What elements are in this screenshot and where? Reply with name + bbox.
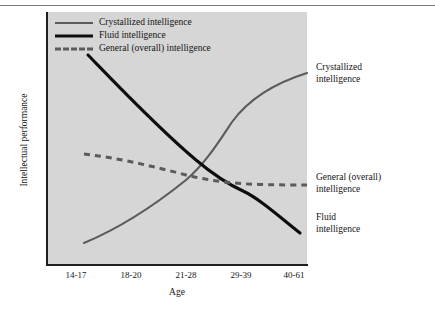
series-line-fluid <box>88 55 300 233</box>
chart-legend: Crystallized intelligence Fluid intellig… <box>55 16 265 55</box>
annotation-crystallized: Crystallized intelligence <box>316 62 362 85</box>
x-tick-label-3: 29-39 <box>219 270 263 280</box>
chart-figure: Crystallized intelligence Fluid intellig… <box>0 0 435 315</box>
legend-label-fluid: Fluid intelligence <box>99 30 166 41</box>
solid-thick-line-icon <box>55 30 93 42</box>
legend-label-general: General (overall) intelligence <box>99 43 211 54</box>
x-tick-label-1: 18-20 <box>109 270 153 280</box>
legend-item-crystallized: Crystallized intelligence <box>55 16 265 29</box>
solid-thin-line-icon <box>55 17 93 29</box>
legend-item-fluid: Fluid intelligence <box>55 29 265 42</box>
x-tick-label-2: 21-28 <box>164 270 208 280</box>
x-axis-title: Age <box>47 287 307 297</box>
y-axis-title: Intellectual performance <box>19 50 29 230</box>
dashed-line-icon <box>55 43 93 55</box>
annotation-general: General (overall) intelligence <box>316 172 381 195</box>
legend-label-crystallized: Crystallized intelligence <box>99 17 192 28</box>
annotation-fluid: Fluid intelligence <box>316 212 360 235</box>
x-tick-label-0: 14-17 <box>54 270 98 280</box>
legend-item-general: General (overall) intelligence <box>55 42 265 55</box>
x-tick-label-4: 40-61 <box>272 270 316 280</box>
